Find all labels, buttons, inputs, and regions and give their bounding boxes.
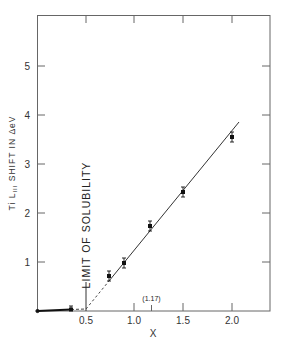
limit-of-solubility-label: LIMIT OF SOLUBILITY (80, 162, 92, 289)
y-axis-title-main: Ti L (7, 193, 17, 211)
y-tick-labels: 1 2 3 4 5 (24, 61, 30, 268)
fit-line-high (109, 122, 239, 281)
data-point (230, 132, 234, 142)
y-axis-ticks-right (262, 66, 270, 262)
y-tick-label: 2 (24, 208, 30, 219)
data-point (36, 309, 39, 312)
chart-svg: 1 2 3 4 5 0.5 1.0 1.5 2.0 X Ti LIII SHIF… (0, 0, 285, 343)
x-axis-ticks-top (86, 16, 232, 24)
y-tick-label: 1 (24, 257, 30, 268)
plot-frame (38, 16, 271, 312)
annotation-1-17: (1.17) (142, 295, 160, 303)
y-axis-title-rest: SHIFT IN ΔeV (7, 116, 17, 185)
limit-of-solubility-text: LIMIT OF SOLUBILITY (80, 162, 92, 289)
x-tick-label: 0.5 (79, 315, 93, 326)
x-tick-label: 1.5 (176, 315, 190, 326)
x-tick-labels: 0.5 1.0 1.5 2.0 (79, 315, 239, 326)
y-tick-label: 4 (24, 110, 30, 121)
y-tick-label: 5 (24, 61, 30, 72)
data-points (36, 132, 234, 313)
svg-text:Ti LIII SHIFT IN ΔeV: Ti LIII SHIFT IN ΔeV (7, 116, 18, 211)
y-tick-label: 3 (24, 159, 30, 170)
y-axis-ticks-left (38, 66, 46, 262)
y-axis-title-sub: III (12, 185, 18, 193)
data-point (122, 258, 126, 268)
y-axis-title: Ti LIII SHIFT IN ΔeV (7, 116, 18, 211)
fit-line-dashed-horizontal (71, 309, 86, 310)
data-point (69, 306, 73, 311)
x-tick-label: 1.0 (127, 315, 141, 326)
x-axis-ticks-bottom (134, 303, 232, 311)
x-tick-label: 2.0 (225, 315, 239, 326)
x-axis-title: X (150, 328, 157, 339)
